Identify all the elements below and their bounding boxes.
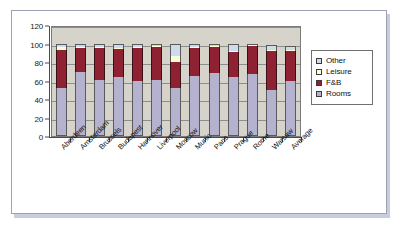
legend-swatch-icon xyxy=(316,80,322,86)
bar-segment-fandb xyxy=(132,48,143,81)
bars-group xyxy=(52,27,300,136)
legend-swatch-icon xyxy=(316,69,322,75)
bar-segment-fandb xyxy=(75,48,86,72)
bar-segment-rooms xyxy=(56,88,67,136)
legend-item-other[interactable]: Other xyxy=(316,56,368,65)
bar-segment-fandb xyxy=(247,46,258,74)
y-axis-line xyxy=(49,26,50,138)
bar-segment-fandb xyxy=(94,48,105,79)
y-axis-tick-label: 80 xyxy=(35,59,44,68)
bar-segment-fandb xyxy=(189,48,200,76)
bar-segment-rooms xyxy=(209,73,220,136)
legend-swatch-icon xyxy=(316,91,322,97)
bar-prague[interactable] xyxy=(228,27,239,136)
y-axis-tick-label: 100 xyxy=(30,40,43,49)
bar-segment-fandb xyxy=(151,47,162,79)
bar-segment-rooms xyxy=(266,90,277,136)
x-axis-labels: AberdeenAmsterdamBrusselsBudapestHannove… xyxy=(51,138,301,198)
bar-segment-other xyxy=(170,44,181,56)
bar-segment-fandb xyxy=(228,52,239,77)
bar-hannover[interactable] xyxy=(132,27,143,136)
y-axis-tick-label: 60 xyxy=(35,77,44,86)
plot-area xyxy=(51,26,301,137)
bar-liverpool[interactable] xyxy=(151,27,162,136)
bar-segment-rooms xyxy=(247,74,258,136)
bar-segment-fandb xyxy=(285,51,296,81)
bar-moscow[interactable] xyxy=(170,27,181,136)
legend-item-fandb[interactable]: F&B xyxy=(316,78,368,87)
bar-segment-fandb xyxy=(266,51,277,90)
bar-munic[interactable] xyxy=(189,27,200,136)
bar-segment-fandb xyxy=(113,49,124,77)
bar-rome[interactable] xyxy=(247,27,258,136)
legend-label: Leisure xyxy=(326,67,352,76)
legend-item-rooms[interactable]: Rooms xyxy=(316,89,368,98)
legend-swatch-icon xyxy=(316,58,322,64)
chart-legend: OtherLeisureF&BRooms xyxy=(311,50,373,105)
bar-segment-fandb xyxy=(170,62,181,88)
legend-label: Other xyxy=(326,56,346,65)
stacked-bar-chart: 020406080100120 AberdeenAmsterdamBrussel… xyxy=(11,10,387,214)
bar-segment-rooms xyxy=(228,77,239,136)
bar-amsterdam[interactable] xyxy=(75,27,86,136)
y-axis-tick-label: 20 xyxy=(35,114,44,123)
bar-average[interactable] xyxy=(285,27,296,136)
bar-paris[interactable] xyxy=(209,27,220,136)
legend-label: F&B xyxy=(326,78,341,87)
scanned-page: 020406080100120 AberdeenAmsterdamBrussel… xyxy=(0,0,404,228)
legend-label: Rooms xyxy=(326,89,351,98)
bar-aberdeen[interactable] xyxy=(56,27,67,136)
bar-segment-fandb xyxy=(209,47,220,73)
y-axis-tick-label: 0 xyxy=(39,133,43,142)
y-axis-tick-label: 40 xyxy=(35,96,44,105)
bar-warsaw[interactable] xyxy=(266,27,277,136)
y-axis-tick-label: 120 xyxy=(30,22,43,31)
legend-item-leisure[interactable]: Leisure xyxy=(316,67,368,76)
bar-segment-fandb xyxy=(56,50,67,88)
y-axis: 020406080100120 xyxy=(11,26,49,137)
bar-budapest[interactable] xyxy=(113,27,124,136)
